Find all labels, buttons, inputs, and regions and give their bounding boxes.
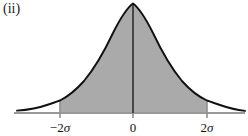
normal-distribution-figure: (ii) −2σ 0 2σ [0,0,248,136]
tick-label-minus-two-sigma: −2σ [50,121,70,134]
tick-label-zero: 0 [130,121,137,134]
tick-label-two-sigma: 2σ [201,121,214,134]
normal-curve-plot [0,0,248,136]
